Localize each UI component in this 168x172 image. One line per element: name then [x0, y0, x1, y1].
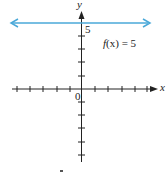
- tick-label-5: 5: [85, 24, 91, 35]
- y-axis-arrow-icon: [79, 11, 85, 19]
- caption-fragment: [60, 170, 63, 172]
- function-argument: (x): [106, 37, 119, 49]
- function-line-f-equals-5: [11, 19, 150, 27]
- origin-label: 0: [75, 91, 81, 102]
- function-equation: = 5: [119, 37, 136, 49]
- y-axis-label: y: [77, 0, 82, 10]
- function-annotation: f(x) = 5: [103, 38, 136, 49]
- x-axis-arrow-icon: [150, 86, 158, 92]
- coordinate-plane: [0, 0, 168, 172]
- x-axis-label: x: [160, 82, 165, 93]
